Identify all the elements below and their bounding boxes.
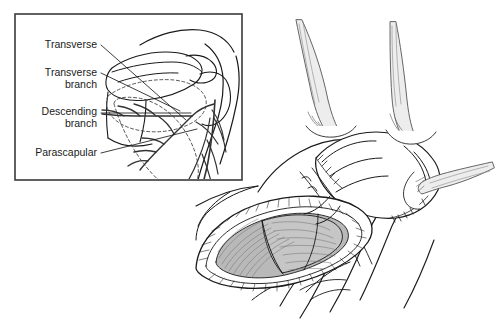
label-parascapular: Parascapular <box>35 146 97 158</box>
label-descending-branch-line1: Descending <box>42 105 98 117</box>
vascular-anatomy-inset: Transverse Transverse branch Descending … <box>15 14 242 191</box>
label-transverse: Transverse <box>45 38 97 50</box>
label-transverse-branch-line1: Transverse <box>45 66 97 78</box>
label-descending-branch-line2: branch <box>65 117 97 129</box>
medical-illustration-figure: Transverse Transverse branch Descending … <box>0 0 500 328</box>
label-transverse-branch-line2: branch <box>65 78 97 90</box>
